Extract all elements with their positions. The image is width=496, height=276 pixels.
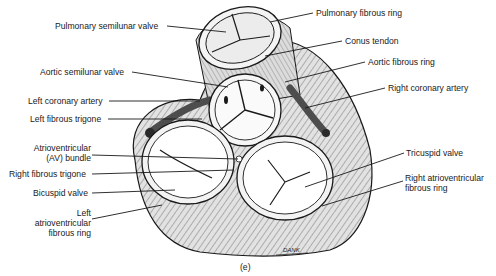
label-aortic-fibrous-ring: Aortic fibrous ring (368, 57, 435, 67)
label-right-fibrous-trigone: Right fibrous trigone (9, 169, 86, 179)
label-right-av-line2: fibrous ring (405, 183, 484, 193)
label-right-coronary-artery: Right coronary artery (388, 83, 468, 93)
label-left-av-line3: fibrous ring (10, 228, 91, 238)
label-pulmonary-semilunar-valve: Pulmonary semilunar valve (55, 21, 158, 31)
label-pulmonary-fibrous-ring: Pulmonary fibrous ring (316, 8, 402, 18)
label-av-bundle: Atrioventricular (AV) bundle (20, 143, 91, 163)
label-right-av-fibrous-ring: Right atrioventricular fibrous ring (405, 173, 484, 193)
label-av-bundle-line1: Atrioventricular (20, 143, 91, 153)
bicuspid-valve (148, 126, 228, 198)
label-conus-tendon: Conus tendon (345, 36, 399, 46)
tricuspid-valve (243, 142, 327, 214)
label-left-coronary-artery: Left coronary artery (28, 96, 103, 106)
label-av-bundle-line2: (AV) bundle (20, 153, 91, 163)
figure-caption: (e) (240, 262, 251, 272)
label-aortic-semilunar-valve: Aortic semilunar valve (40, 67, 124, 77)
label-left-av-line2: atrioventricular (10, 218, 91, 228)
label-left-fibrous-trigone: Left fibrous trigone (30, 114, 101, 124)
label-tricuspid-valve: Tricuspid valve (406, 148, 463, 158)
label-left-av-line1: Left (10, 208, 91, 218)
label-right-av-line1: Right atrioventricular (405, 173, 484, 183)
artist-signature: DANK (283, 247, 301, 253)
label-left-av-fibrous-ring: Left atrioventricular fibrous ring (10, 208, 91, 238)
label-bicuspid-valve: Bicuspid valve (33, 188, 88, 198)
